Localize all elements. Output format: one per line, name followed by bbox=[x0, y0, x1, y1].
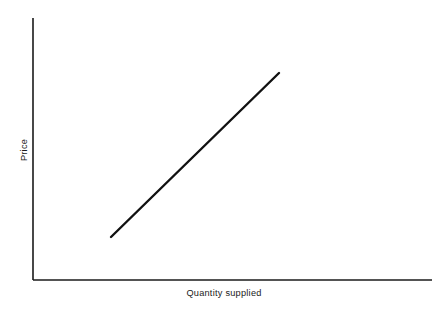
supply-curve-figure: Price Quantity supplied bbox=[0, 0, 448, 316]
supply-curve bbox=[111, 73, 279, 237]
chart-canvas bbox=[0, 0, 448, 316]
x-axis-label: Quantity supplied bbox=[0, 288, 448, 298]
y-axis-label: Price bbox=[19, 120, 29, 180]
